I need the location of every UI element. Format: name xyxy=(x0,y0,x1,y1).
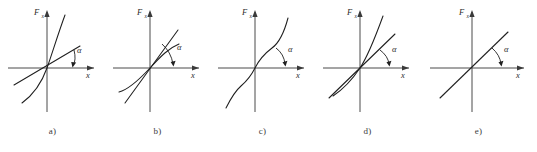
y-axis-arrowhead-a xyxy=(44,10,49,17)
panel-a-plot: F x x α xyxy=(0,0,105,125)
panel-b: F x x α b) xyxy=(105,0,210,152)
panel-c: F x x α c) xyxy=(210,0,315,152)
y-axis-subscript-a: x xyxy=(41,13,45,19)
angle-label-c: α xyxy=(288,44,293,54)
y-axis-subscript-d: x xyxy=(354,13,358,19)
angle-arc-c xyxy=(276,48,285,64)
x-axis-label-e: x xyxy=(515,70,520,80)
panel-b-plot: F x x α xyxy=(105,0,210,125)
x-axis-label-c: x xyxy=(295,70,300,80)
panel-e-plot: F x x α xyxy=(420,0,537,125)
y-axis-arrowhead-b xyxy=(147,10,152,17)
straight-line-e xyxy=(440,32,508,98)
y-axis-label-b: F xyxy=(136,7,143,17)
y-axis-subscript-c: x xyxy=(249,13,253,19)
figure-force-displacement-graphs: F x x α a) F x x xyxy=(0,0,537,152)
x-axis-label-a: x xyxy=(85,70,90,80)
y-axis-arrowhead-d xyxy=(357,10,362,17)
y-axis-arrowhead-e xyxy=(469,10,474,17)
y-axis-subscript-e: x xyxy=(466,13,470,19)
angle-arrowhead-d xyxy=(387,61,392,67)
curve-d xyxy=(333,16,383,96)
y-axis-label-e: F xyxy=(458,7,465,17)
panel-caption-e: e) xyxy=(420,125,537,137)
panel-caption-c: c) xyxy=(210,125,315,137)
panel-e: F x x α e) xyxy=(420,0,537,152)
y-axis-subscript-b: x xyxy=(144,13,148,19)
panel-caption-d: d) xyxy=(315,125,420,137)
panel-caption-b: b) xyxy=(105,125,210,137)
angle-arrowhead-a xyxy=(71,62,76,67)
y-axis-label-c: F xyxy=(241,7,248,17)
panel-a: F x x α a) xyxy=(0,0,105,152)
y-axis-label-a: F xyxy=(33,7,40,17)
straight-line-d xyxy=(329,34,395,98)
curve-c xyxy=(226,18,288,108)
angle-label-b: α xyxy=(177,42,182,52)
angle-arc-e xyxy=(492,48,501,64)
x-axis-label-b: x xyxy=(190,70,195,80)
angle-arrowhead-c xyxy=(283,61,288,67)
panel-d: F x x α d) xyxy=(315,0,420,152)
angle-label-e: α xyxy=(504,44,509,54)
angle-label-a: α xyxy=(77,45,82,55)
panel-c-plot: F x x α xyxy=(210,0,315,125)
panel-caption-a: a) xyxy=(0,125,105,137)
x-axis-label-d: x xyxy=(400,70,405,80)
panel-d-plot: F x x α xyxy=(315,0,420,125)
y-axis-label-d: F xyxy=(346,7,353,17)
angle-arrowhead-b xyxy=(171,61,176,67)
angle-label-d: α xyxy=(392,44,397,54)
y-axis-arrowhead-c xyxy=(252,10,257,17)
angle-arrowhead-e xyxy=(499,61,504,67)
